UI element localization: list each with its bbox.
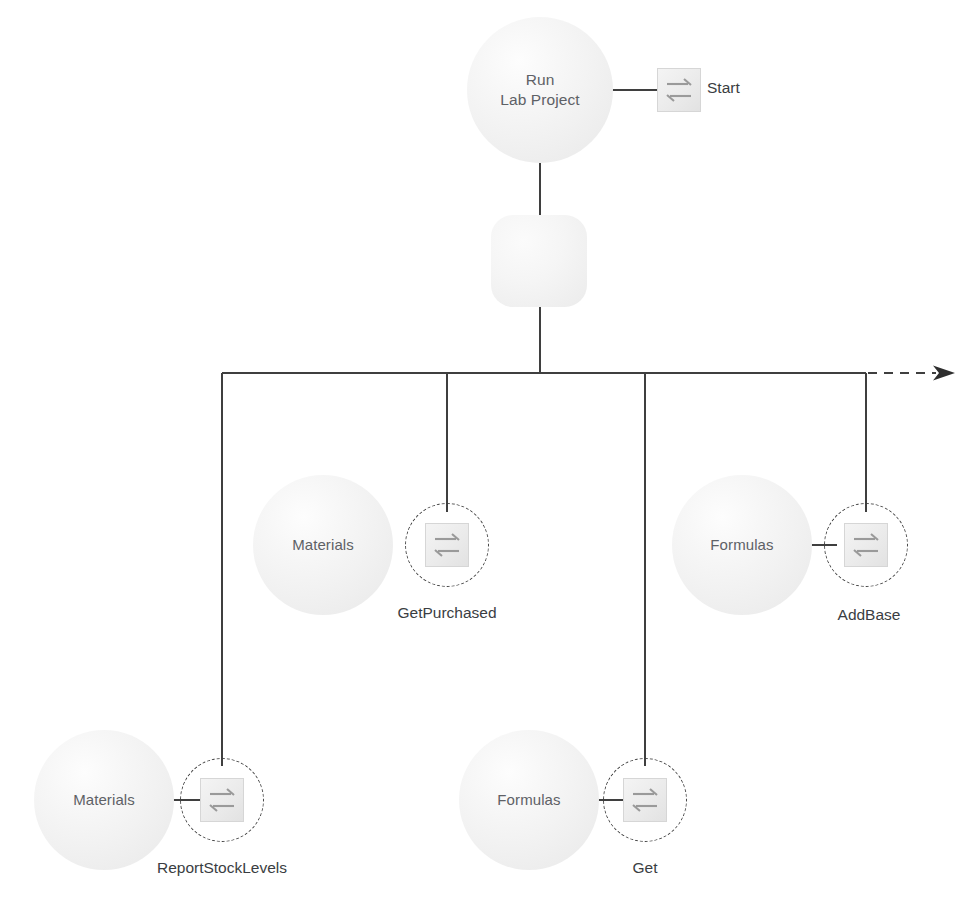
add-base-message-label: AddBase — [838, 606, 901, 624]
object-materials-get-purchased[interactable]: Materials — [253, 475, 393, 615]
report-stock-levels-message-exchange-icon[interactable] — [200, 778, 244, 822]
get-purchased-message-exchange-icon[interactable] — [425, 523, 469, 567]
dashed-arrow-right — [868, 366, 955, 381]
report-stock-levels-message-label: ReportStockLevels — [157, 859, 287, 877]
object-formulas-get-label: Formulas — [497, 790, 560, 809]
object-materials-report-stock-levels[interactable]: Materials — [34, 730, 174, 870]
object-formulas-add-base[interactable]: Formulas — [672, 475, 812, 615]
object-run-lab-project[interactable]: Run Lab Project — [467, 17, 613, 163]
get-message-label: Get — [633, 859, 658, 877]
start-message-exchange-icon[interactable] — [657, 68, 701, 112]
object-formulas-get[interactable]: Formulas — [459, 730, 599, 870]
get-purchased-message-label: GetPurchased — [397, 604, 496, 622]
object-formulas-add-base-label: Formulas — [710, 535, 773, 554]
object-run-lab-project-label: Run Lab Project — [500, 70, 580, 110]
process-step-node[interactable] — [491, 215, 587, 307]
object-materials-get-purchased-label: Materials — [292, 535, 354, 554]
start-message-label: Start — [707, 79, 740, 97]
collaboration-diagram-canvas: Run Lab Project Start Materials — [0, 0, 964, 899]
object-materials-report-stock-levels-label: Materials — [73, 790, 135, 809]
add-base-message-exchange-icon[interactable] — [844, 523, 888, 567]
get-message-exchange-icon[interactable] — [623, 778, 667, 822]
